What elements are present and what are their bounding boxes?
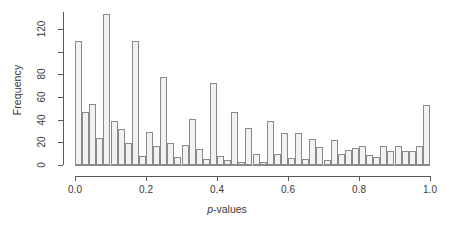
y-axis-tick-label: 0 — [30, 156, 54, 174]
histogram-bar — [245, 128, 252, 165]
histogram-bar — [274, 154, 281, 165]
histogram-bar — [132, 41, 139, 165]
y-axis-tick-label-text: 60 — [33, 91, 51, 102]
histogram-bar — [316, 147, 323, 165]
histogram-bar — [75, 41, 82, 165]
y-axis-tick-label-text: 40 — [33, 114, 51, 125]
y-axis-tick — [58, 29, 63, 30]
x-axis-tick-label: 0.6 — [268, 184, 308, 195]
x-axis-tick-label: 0.8 — [339, 184, 379, 195]
y-axis-tick-label: 20 — [30, 133, 54, 151]
histogram-bar — [210, 83, 217, 165]
histogram-bar — [345, 150, 352, 165]
y-axis-tick-label: 40 — [30, 111, 54, 129]
histogram-bar — [359, 146, 366, 165]
x-axis-tick-label: 0.0 — [55, 184, 95, 195]
histogram-bar — [288, 158, 295, 165]
x-axis-tick — [146, 176, 147, 181]
histogram-bar — [387, 151, 394, 165]
y-axis-title: Frequency — [6, 0, 28, 180]
y-axis-tick-label: 60 — [30, 88, 54, 106]
histogram-bar — [366, 155, 373, 165]
y-axis-tick-label-text: 120 — [33, 21, 51, 38]
histogram-bar — [167, 143, 174, 165]
histogram-bar — [373, 157, 380, 165]
x-axis-tick — [430, 176, 431, 181]
y-axis-tick — [58, 142, 63, 143]
x-axis-tick-label: 0.4 — [197, 184, 237, 195]
histogram-bar — [189, 119, 196, 165]
histogram-bar — [338, 154, 345, 165]
histogram-bar — [409, 151, 416, 165]
histogram-bar — [146, 132, 153, 165]
y-axis-tick — [58, 165, 63, 166]
histogram-bar — [267, 121, 274, 165]
x-axis-title: p-values — [0, 203, 454, 215]
histogram-bar — [295, 133, 302, 165]
x-axis-tick — [359, 176, 360, 181]
y-axis-tick — [58, 120, 63, 121]
y-axis-tick-label-text: 80 — [33, 69, 51, 80]
histogram-figure: Frequency 020406080120 0.00.20.40.60.81.… — [0, 0, 454, 232]
y-axis-title-text: Frequency — [11, 65, 23, 116]
y-axis-tick-label: 80 — [30, 65, 54, 83]
histogram-bar — [309, 139, 316, 165]
histogram-bar — [253, 154, 260, 165]
histogram-bar — [160, 77, 167, 165]
histogram-bar — [82, 112, 89, 165]
y-axis-tick-label-text: 0 — [33, 162, 51, 168]
histogram-bar — [416, 146, 423, 165]
histogram-bar — [217, 156, 224, 165]
histogram-bar — [139, 156, 146, 165]
x-axis-tick — [288, 176, 289, 181]
y-axis-tick — [58, 52, 63, 53]
y-axis-tick — [58, 74, 63, 75]
x-axis-tick — [75, 176, 76, 181]
plot-area — [75, 12, 430, 165]
histogram-bars — [75, 12, 430, 165]
histogram-bar — [118, 129, 125, 165]
x-axis-tick-label: 0.2 — [126, 184, 166, 195]
histogram-bar — [125, 143, 132, 165]
histogram-bar — [402, 151, 409, 165]
histogram-bar — [182, 145, 189, 165]
histogram-bar — [331, 140, 338, 165]
histogram-bar — [103, 14, 110, 165]
histogram-bar — [423, 105, 430, 165]
histogram-bar — [111, 121, 118, 165]
y-axis-tick-label: 120 — [30, 20, 54, 38]
histogram-bar — [89, 104, 96, 165]
x-axis-title-rest: -values — [213, 203, 247, 215]
plot-baseline — [75, 165, 430, 166]
histogram-bar — [281, 133, 288, 165]
histogram-bar — [380, 146, 387, 165]
y-axis-tick — [58, 97, 63, 98]
histogram-bar — [174, 157, 181, 165]
y-axis-tick-label-text: 20 — [33, 137, 51, 148]
x-axis-line — [75, 176, 430, 177]
y-axis-line — [63, 12, 64, 165]
histogram-bar — [96, 138, 103, 165]
histogram-bar — [153, 146, 160, 165]
histogram-bar — [395, 146, 402, 165]
histogram-bar — [231, 112, 238, 165]
histogram-bar — [352, 148, 359, 165]
histogram-bar — [196, 149, 203, 165]
x-axis-tick — [217, 176, 218, 181]
x-axis-tick-label: 1.0 — [410, 184, 450, 195]
